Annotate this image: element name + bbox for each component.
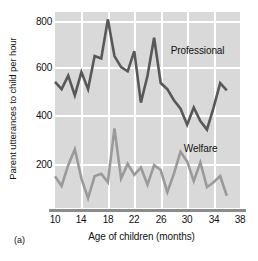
x-tick-label: 18 (95, 214, 121, 225)
x-tick-label: 10 (42, 214, 68, 225)
series-plot (55, 12, 240, 208)
x-tick-label: 34 (201, 214, 227, 225)
y-tick-label: 600 (2, 62, 52, 73)
x-tick-label: 38 (227, 214, 253, 225)
welfare-series-line (55, 128, 227, 198)
chart-figure: Parent utterances to child per hour 800 … (0, 0, 258, 261)
series-label-welfare: Welfare (184, 143, 218, 154)
x-tick-label: 14 (68, 214, 94, 225)
x-axis-line (49, 209, 246, 212)
y-tick-label: 800 (2, 16, 52, 27)
y-tick-label: 400 (2, 110, 52, 121)
x-tick-label: 22 (121, 214, 147, 225)
x-tick-label: 26 (148, 214, 174, 225)
x-axis-tick-labels: 10 14 18 22 26 30 34 38 (0, 214, 258, 228)
panel-identifier: (a) (14, 235, 25, 245)
y-tick-label: 200 (2, 159, 52, 170)
x-axis-title: Age of children (months) (34, 231, 249, 242)
series-label-professional: Professional (171, 45, 225, 56)
x-tick-label: 30 (174, 214, 200, 225)
professional-series-line (55, 19, 227, 129)
plot-area (55, 12, 240, 208)
